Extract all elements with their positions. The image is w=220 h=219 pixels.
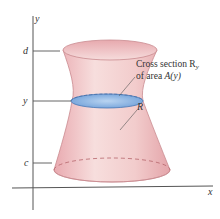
x-axis-label: x	[207, 186, 213, 197]
top-face	[63, 40, 157, 60]
tick-label-d: d	[23, 45, 29, 56]
solid-body	[54, 50, 170, 182]
x-axis	[12, 186, 213, 188]
solid-volume-diagram: y x d y c Cross section Ry of area A(y) …	[0, 0, 220, 219]
tick-label-y: y	[22, 95, 28, 106]
cross-section-label-line2: of area A(y)	[136, 71, 181, 82]
region-label: R	[136, 101, 143, 112]
y-axis-label: y	[34, 13, 40, 24]
tick-label-c: c	[24, 157, 29, 168]
